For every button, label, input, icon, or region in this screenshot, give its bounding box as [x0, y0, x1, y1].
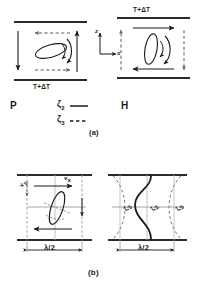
coordinate-axes-icon — [100, 33, 116, 54]
panel-a-right-rotation-arcs — [160, 36, 170, 64]
panel-b-right-wavelength-label: λ/2 — [138, 243, 149, 252]
caption-b: (b) — [88, 268, 99, 277]
legend-symbol-zeta-3: ζ3 — [57, 114, 65, 126]
figure-svg — [0, 0, 201, 284]
panel-a-right-director-ellipse — [142, 33, 159, 66]
panel-b-left-flow-arrows — [27, 181, 82, 229]
panel-a-left-bottom-temperature-label: T+ΔT — [33, 83, 50, 90]
figure-container: T+ΔT T+ΔT z x P H ζ2 ζ3 (a) vz vx λ/2 ζ3… — [0, 0, 201, 284]
panel-b-left-velocity-label: vx — [64, 175, 71, 183]
panel-a-left-letter: P — [10, 100, 17, 111]
panel-b-left-wavelength-label: λ/2 — [44, 243, 55, 252]
axis-label-z: z — [95, 28, 98, 34]
legend-symbol-zeta-2: ζ2 — [57, 99, 65, 111]
panel-b-left-director-ellipse — [44, 190, 70, 226]
panel-b-left-plates — [17, 175, 92, 240]
panel-b-left-velocity-sub: x — [68, 177, 72, 183]
panel-a-left-plates — [14, 22, 87, 80]
panel-a-right-top-temperature-label: T+ΔT — [133, 6, 150, 13]
caption-a: (a) — [89, 128, 99, 137]
axis-label-x: x — [117, 50, 121, 56]
panel-a-left-arrows — [18, 31, 77, 72]
panel-a-left-rotation-arcs — [62, 39, 72, 63]
panel-a-right-letter: H — [121, 100, 128, 111]
legend-symbol-zeta-2-subscript: 2 — [61, 105, 65, 111]
legend-symbol-zeta-3-subscript: 3 — [61, 120, 65, 126]
